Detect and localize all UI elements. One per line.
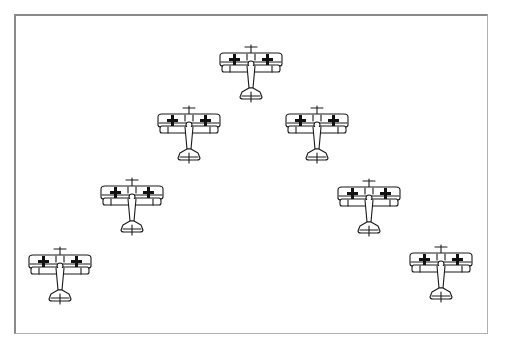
biplane-icon (216, 44, 286, 102)
biplane-icon (282, 105, 352, 163)
biplane-icon (406, 244, 476, 302)
biplane-icon (25, 246, 95, 304)
biplane-icon (334, 178, 404, 236)
biplane-icon (154, 105, 224, 163)
biplane-icon (97, 177, 167, 235)
